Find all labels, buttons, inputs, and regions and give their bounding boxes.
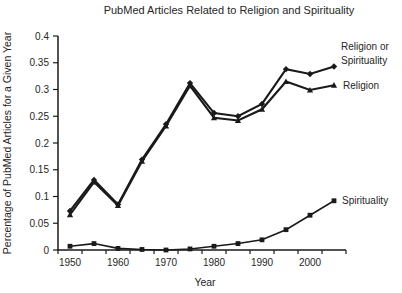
series-marker bbox=[92, 241, 97, 246]
series-marker bbox=[140, 247, 145, 252]
series-marker bbox=[284, 227, 289, 232]
y-tick-label: 0.1 bbox=[35, 191, 49, 202]
y-tick-label: 0.05 bbox=[30, 218, 50, 229]
series-marker bbox=[308, 213, 313, 218]
x-tick-label: 1990 bbox=[251, 257, 274, 268]
x-tick-label: 1970 bbox=[155, 257, 178, 268]
y-axis-title: Percentage of PubMed Articles for a Give… bbox=[1, 31, 13, 254]
plot-area: 00.050.10.150.20.250.30.350.419501960197… bbox=[30, 31, 390, 269]
series-label-religion-or-spirituality: Religion or bbox=[341, 41, 389, 52]
chart-title: PubMed Articles Related to Religion and … bbox=[104, 4, 355, 16]
x-axis-title: Year bbox=[194, 276, 216, 288]
series-marker bbox=[307, 71, 313, 77]
x-tick-label: 1980 bbox=[203, 257, 226, 268]
series-label-religion-or-spirituality: Spirituality bbox=[341, 55, 387, 66]
y-tick-label: 0 bbox=[43, 245, 49, 256]
x-tick-label: 2000 bbox=[299, 257, 322, 268]
x-tick-label: 1950 bbox=[59, 257, 82, 268]
y-tick-label: 0.15 bbox=[30, 164, 50, 175]
chart-container: PubMed Articles Related to Religion and … bbox=[0, 0, 402, 293]
series-marker bbox=[68, 244, 73, 249]
series-marker bbox=[188, 247, 193, 252]
y-tick-label: 0.35 bbox=[30, 57, 50, 68]
y-tick-label: 0.4 bbox=[35, 31, 49, 42]
series-line-religion-or-spirituality bbox=[70, 66, 334, 210]
series-marker bbox=[332, 198, 337, 203]
series-marker bbox=[164, 248, 169, 253]
series-marker bbox=[236, 241, 241, 246]
axis-lines bbox=[58, 36, 346, 250]
series-label-religion: Religion bbox=[343, 80, 379, 91]
series-marker bbox=[260, 237, 265, 242]
y-tick-label: 0.2 bbox=[35, 138, 49, 149]
x-tick-label: 1960 bbox=[107, 257, 130, 268]
series-marker bbox=[331, 63, 337, 69]
series-line-spirituality bbox=[70, 201, 334, 250]
y-tick-label: 0.3 bbox=[35, 84, 49, 95]
chart-svg: PubMed Articles Related to Religion and … bbox=[0, 0, 402, 293]
series-marker bbox=[116, 246, 121, 251]
y-tick-label: 0.25 bbox=[30, 111, 50, 122]
series-marker bbox=[212, 244, 217, 249]
series-label-spirituality: Spirituality bbox=[342, 195, 388, 206]
